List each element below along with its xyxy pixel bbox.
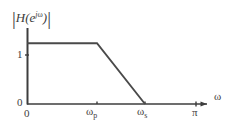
y-axis-title-close-bar: |	[47, 8, 51, 29]
xtick-label-omega-s-sub: s	[144, 111, 147, 120]
xtick-label-omega-s: ωs	[137, 106, 147, 120]
xtick-label-pi: π	[192, 107, 198, 118]
magnitude-response-curve	[27, 43, 145, 104]
x-axis-arrowhead	[201, 102, 208, 107]
magnitude-response-figure: |H(ejω)| 1 0 0 ωp ωs π ω	[0, 0, 232, 131]
ytick-label-zero: 0	[17, 97, 23, 108]
y-axis-title: |H(ejω)|	[12, 9, 51, 28]
xtick-label-omega-p: ωp	[86, 106, 97, 120]
y-axis-title-h: H	[16, 10, 25, 25]
x-axis-title: ω	[214, 91, 221, 102]
ytick-label-one: 1	[17, 49, 23, 60]
xtick-label-zero: 0	[24, 108, 30, 119]
xtick-label-omega-p-sub: p	[93, 111, 97, 120]
